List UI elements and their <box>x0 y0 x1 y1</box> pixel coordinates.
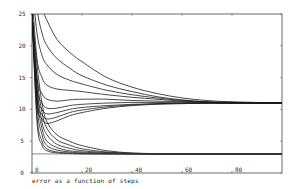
x-tick-label: 20 <box>85 166 93 173</box>
series-line <box>32 14 282 154</box>
series-line <box>32 14 282 154</box>
x-tick-label: 40 <box>135 166 143 173</box>
axis-ticks: 0510152025020406080 <box>18 10 282 176</box>
x-tick-label: 0 <box>35 166 39 173</box>
chart-caption: error as a function of steps <box>32 177 139 184</box>
series-line <box>32 14 282 154</box>
y-tick-label: 0 <box>20 169 24 176</box>
series-line <box>32 0 282 103</box>
series-line <box>32 14 282 109</box>
series-line <box>32 14 282 123</box>
x-tick-label: 60 <box>185 166 193 173</box>
x-tick-label: 80 <box>235 166 243 173</box>
series-line <box>32 14 282 154</box>
chart: 0510152025020406080 <box>0 0 294 189</box>
series-line <box>32 14 282 154</box>
y-tick-label: 25 <box>18 10 26 17</box>
series-line <box>32 0 282 103</box>
series-line <box>32 14 282 154</box>
y-tick-label: 5 <box>20 137 24 144</box>
series-line <box>32 8 282 103</box>
y-tick-label: 15 <box>18 74 26 81</box>
series-lines <box>32 0 282 154</box>
y-tick-label: 20 <box>18 42 26 49</box>
y-tick-label: 10 <box>18 105 26 112</box>
series-line <box>32 14 282 154</box>
series-line <box>32 0 282 103</box>
series-line <box>32 0 282 103</box>
